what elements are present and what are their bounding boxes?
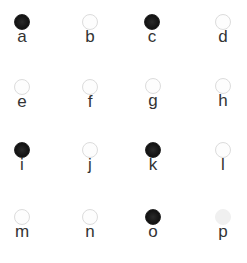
radio-option-h[interactable]: h (203, 78, 243, 128)
radio-option-m[interactable]: m (2, 209, 42, 259)
option-label: k (133, 155, 173, 175)
option-label: o (133, 222, 173, 242)
radio-option-b[interactable]: b (70, 14, 110, 64)
radio-option-e[interactable]: e (2, 79, 42, 129)
option-label: j (70, 155, 110, 175)
radio-option-p[interactable]: p (203, 209, 243, 259)
option-label: c (132, 27, 172, 47)
radio-option-g[interactable]: g (133, 78, 173, 128)
radio-option-l[interactable]: l (203, 142, 243, 192)
radio-option-c[interactable]: c (132, 14, 172, 64)
option-label: i (2, 155, 42, 175)
option-label: l (203, 155, 243, 175)
option-label: a (2, 27, 42, 47)
option-label: b (70, 27, 110, 47)
option-label: p (203, 222, 243, 242)
option-label: d (203, 27, 243, 47)
radio-option-n[interactable]: n (70, 209, 110, 259)
radio-option-a[interactable]: a (2, 14, 42, 64)
option-label: g (133, 91, 173, 111)
option-label: n (70, 222, 110, 242)
option-label: h (203, 91, 243, 111)
radio-option-k[interactable]: k (133, 142, 173, 192)
radio-option-f[interactable]: f (70, 79, 110, 129)
option-label: e (2, 92, 42, 112)
radio-option-o[interactable]: o (133, 209, 173, 259)
radio-option-j[interactable]: j (70, 142, 110, 192)
radio-option-d[interactable]: d (203, 14, 243, 64)
radio-option-i[interactable]: i (2, 142, 42, 192)
option-label: m (2, 222, 42, 242)
option-label: f (70, 92, 110, 112)
